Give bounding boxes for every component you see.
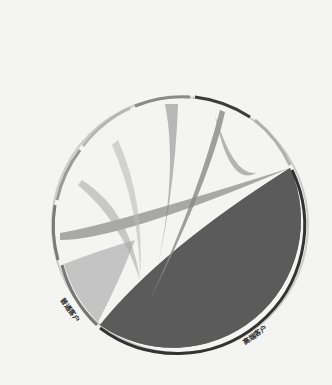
chord-diagram: 普通客户 高端客户 [0,0,332,385]
